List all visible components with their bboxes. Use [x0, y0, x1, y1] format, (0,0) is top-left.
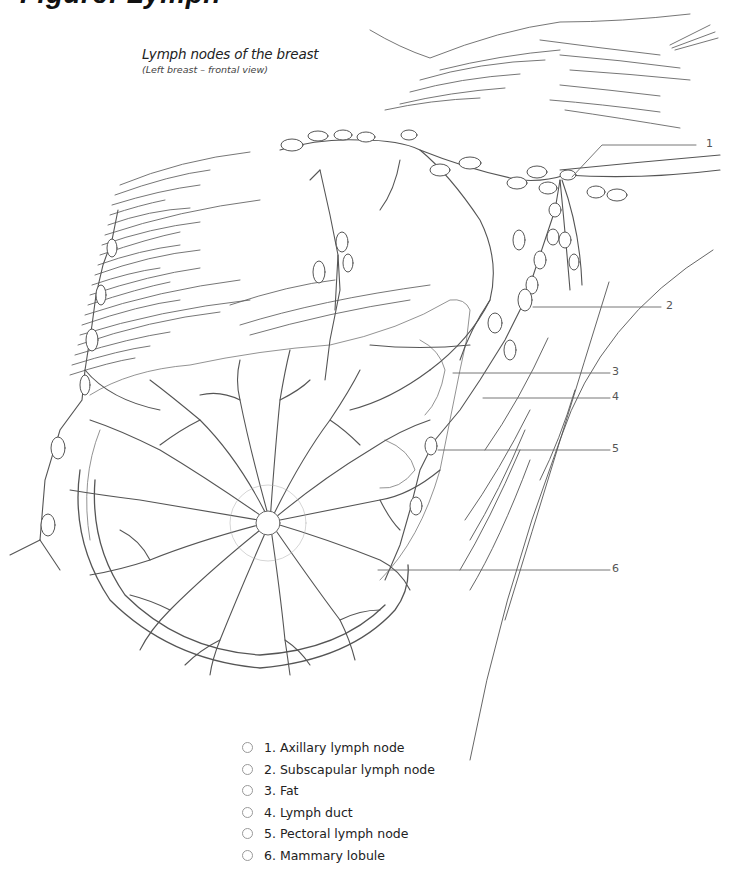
- radio-circle-icon[interactable]: [242, 764, 253, 775]
- legend-label: 1. Axillary lymph node: [264, 740, 405, 755]
- nipple-areola: [230, 485, 306, 561]
- callout-4: 4: [612, 390, 619, 403]
- callout-lines: [378, 145, 696, 570]
- lymph-vessels: [10, 140, 720, 580]
- legend-item-lymph-duct[interactable]: 4. Lymph duct: [242, 802, 435, 824]
- legend-item-mammary-lobule[interactable]: 6. Mammary lobule: [242, 845, 435, 867]
- radio-circle-icon[interactable]: [242, 850, 253, 861]
- fat-tissue: [87, 300, 470, 580]
- chest-muscle-hatching: [70, 152, 430, 375]
- radio-circle-icon[interactable]: [242, 828, 253, 839]
- legend-label: 4. Lymph duct: [264, 805, 353, 820]
- lymph-nodes: [41, 130, 627, 536]
- legend-item-subscapular-lymph-node[interactable]: 2. Subscapular lymph node: [242, 759, 435, 781]
- legend-label: 3. Fat: [264, 783, 299, 798]
- legend-item-pectoral-lymph-node[interactable]: 5. Pectoral lymph node: [242, 823, 435, 845]
- radio-circle-icon[interactable]: [242, 742, 253, 753]
- legend-list: 1. Axillary lymph node 2. Subscapular ly…: [242, 737, 435, 866]
- neck-muscle-lines: [370, 14, 718, 128]
- radio-circle-icon[interactable]: [242, 785, 253, 796]
- legend-item-fat[interactable]: 3. Fat: [242, 780, 435, 802]
- legend-label: 5. Pectoral lymph node: [264, 826, 408, 841]
- mammary-lobule-ducts: [70, 350, 440, 675]
- callout-1: 1: [706, 137, 713, 150]
- callout-5: 5: [612, 442, 619, 455]
- breast-contour: [78, 470, 408, 668]
- callout-6: 6: [612, 562, 619, 575]
- callout-2: 2: [666, 299, 673, 312]
- legend-item-axillary-lymph-node[interactable]: 1. Axillary lymph node: [242, 737, 435, 759]
- radio-circle-icon[interactable]: [242, 807, 253, 818]
- legend-label: 2. Subscapular lymph node: [264, 762, 435, 777]
- callout-3: 3: [612, 365, 619, 378]
- legend-label: 6. Mammary lobule: [264, 848, 385, 863]
